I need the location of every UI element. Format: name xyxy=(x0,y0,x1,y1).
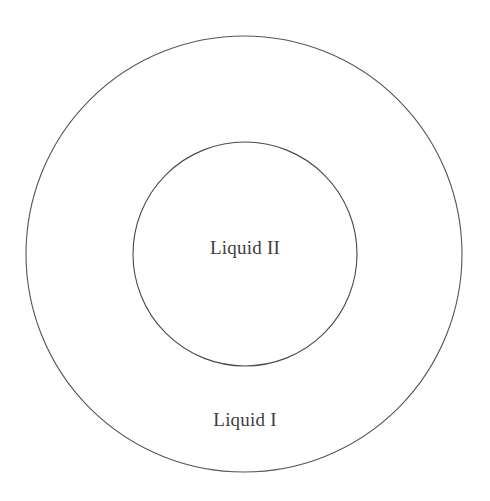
outer-region-label: Liquid I xyxy=(0,410,490,429)
inner-region-label: Liquid II xyxy=(0,238,490,257)
diagram-canvas: Liquid II Liquid I xyxy=(0,0,490,501)
